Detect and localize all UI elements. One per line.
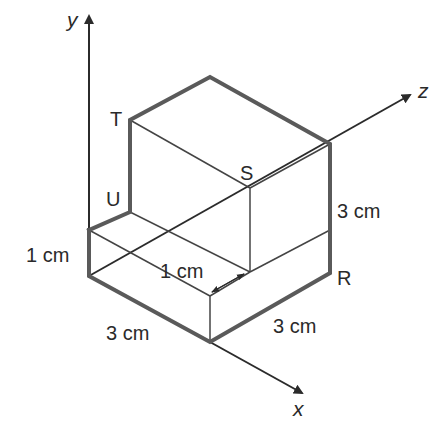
z-axis-label: z [417, 79, 429, 102]
dimension-front-width: 3 cm [106, 322, 149, 344]
vertex-label-s: S [240, 162, 253, 184]
vertex-label-r: R [337, 267, 351, 289]
internal-lines [89, 120, 330, 342]
y-axis-label: y [65, 8, 79, 31]
dimension-right-height: 3 cm [337, 200, 380, 222]
x-axis [210, 342, 302, 393]
dimension-left-height: 1 cm [26, 244, 69, 266]
x-axis-label: x [292, 397, 305, 420]
dimension-step-depth: 1 cm [160, 260, 203, 282]
dimension-right-width: 3 cm [273, 315, 316, 337]
isometric-solid-figure: y z x T U S R 1 cm 1 cm 3 cm 3 cm 3 cm [0, 0, 448, 438]
step-depth-dimension-arrow [212, 274, 244, 292]
vertex-label-t: T [110, 108, 122, 130]
vertex-label-u: U [106, 188, 120, 210]
